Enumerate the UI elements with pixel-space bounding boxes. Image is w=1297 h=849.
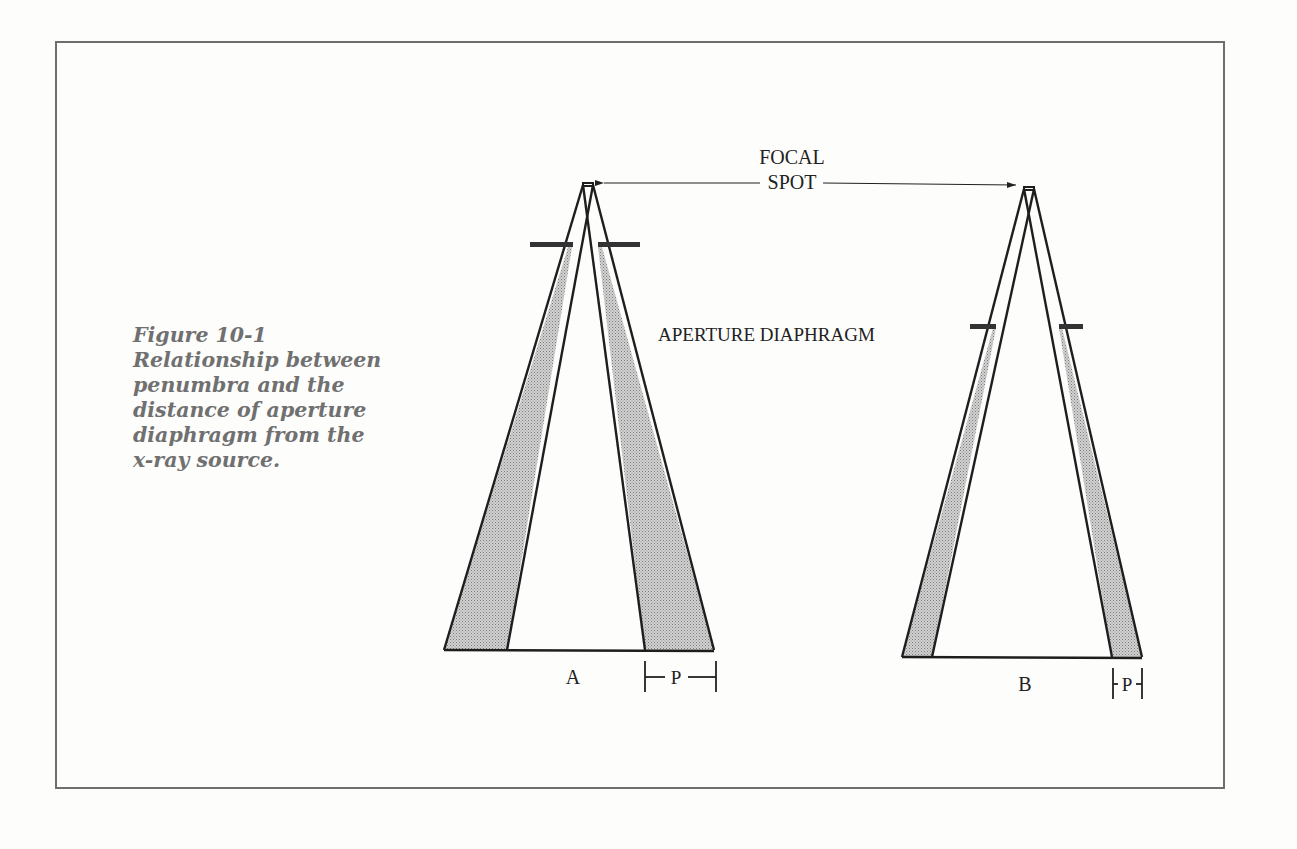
aperture-diaphragm-a [598,242,640,247]
focal-spot-a [583,183,593,186]
diagram-b: P B [902,187,1142,699]
focal-spot-b [1024,187,1034,190]
diagram-a: P A [444,183,716,692]
diagram-label-b: B [1018,673,1031,695]
arrow-to-focal-spot-b [823,183,1016,185]
focal-spot-label: SPOT [768,171,817,193]
penumbra-diagram: P A P B FOCAL SPOT APERTURE DIAPH [0,0,1297,849]
focal-spot-label: FOCAL [759,146,825,168]
aperture-diaphragm-a [530,242,573,247]
diagram-label-a: A [566,666,581,688]
focal-spot-annotation: FOCAL SPOT [604,146,1016,193]
penumbra-right-a [598,247,714,650]
penumbra-label-a: P [671,667,682,688]
aperture-diaphragm-b [970,324,996,329]
aperture-diaphragm-label: APERTURE DIAPHRAGM [658,324,875,345]
aperture-diaphragm-b [1059,324,1083,329]
penumbra-label-b: P [1122,674,1133,695]
